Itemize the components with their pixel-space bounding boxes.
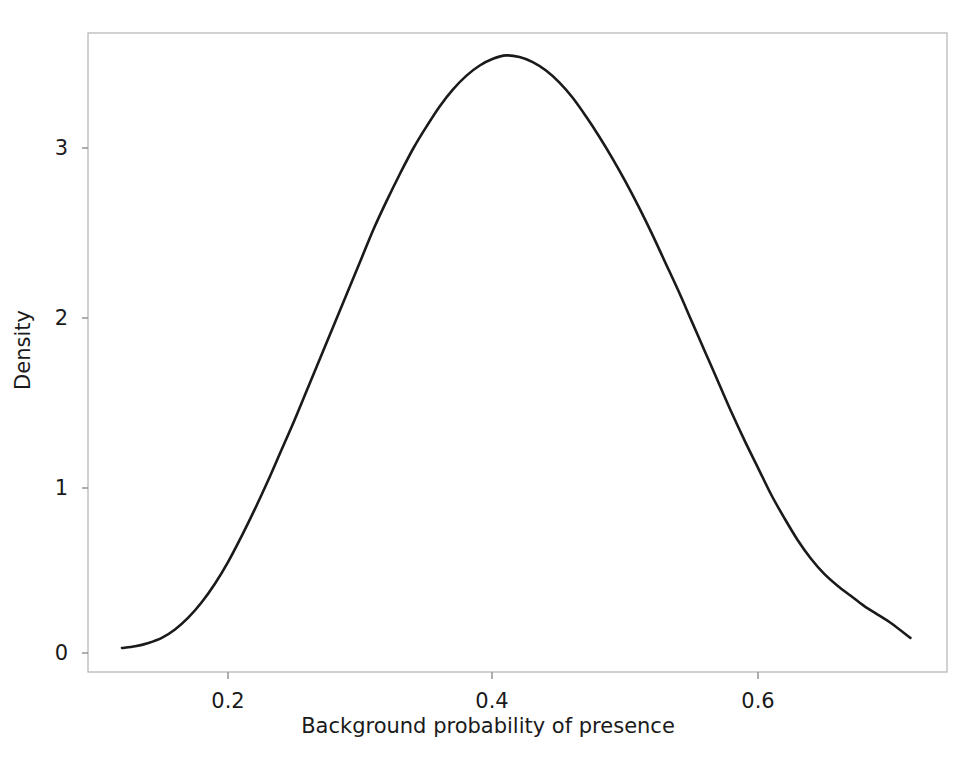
ytick-label-3: 3	[40, 136, 68, 160]
xtick-label-0.4: 0.4	[475, 689, 508, 713]
density-plot-figure: 0 1 2 3 0.2 0.4 0.6 Background probabili…	[0, 0, 976, 766]
xtick-label-0.2: 0.2	[211, 689, 244, 713]
x-axis-title: Background probability of presence	[0, 714, 976, 738]
density-curve	[122, 55, 910, 648]
y-axis-title: Density	[11, 300, 35, 400]
ytick-label-0: 0	[40, 641, 68, 665]
tick-marks	[82, 148, 758, 679]
ytick-label-2: 2	[40, 306, 68, 330]
xtick-label-0.6: 0.6	[741, 689, 774, 713]
ytick-label-1: 1	[40, 476, 68, 500]
plot-canvas	[0, 0, 976, 766]
plot-frame	[88, 33, 947, 672]
